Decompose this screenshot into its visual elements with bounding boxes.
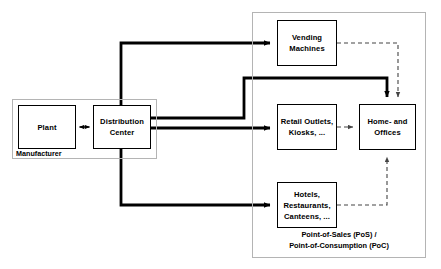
node-home-and-offices[interactable]: Home- and Offices bbox=[359, 104, 416, 150]
node-retail-outlets-label-line-2: Kiosks, ... bbox=[281, 127, 334, 138]
node-vending-machines-label-line-1: Vending bbox=[289, 32, 324, 43]
supply-chain-diagram: Manufacturer Point-of-Sales (PoS) / Poin… bbox=[0, 0, 441, 269]
node-hotels-label-line-2: Restaurants, bbox=[283, 200, 330, 211]
node-home-and-offices-label-line-2: Offices bbox=[367, 127, 407, 138]
node-hotels-label-line-1: Hotels, bbox=[283, 189, 330, 200]
node-vending-machines-label-line-2: Machines bbox=[289, 43, 324, 54]
node-vending-machines[interactable]: Vending Machines bbox=[277, 20, 337, 66]
node-hotels-label-line-3: Canteens, ... bbox=[283, 211, 330, 222]
group-manufacturer-label: Manufacturer bbox=[16, 149, 62, 158]
node-retail-outlets-label-line-1: Retail Outlets, bbox=[281, 116, 334, 127]
pos-caption-line-1: Point-of-Sales (PoS) / bbox=[252, 229, 426, 240]
pos-caption-line-2: Point-of-Consumption (PoC) bbox=[252, 240, 426, 251]
node-distribution-center-label-line-2: Center bbox=[100, 127, 144, 138]
node-plant[interactable]: Plant bbox=[18, 105, 76, 149]
node-hotels-restaurants-canteens[interactable]: Hotels, Restaurants, Canteens, ... bbox=[277, 182, 337, 228]
node-plant-label: Plant bbox=[37, 122, 56, 133]
node-home-and-offices-label-line-1: Home- and bbox=[367, 116, 407, 127]
group-point-of-sales-caption: Point-of-Sales (PoS) / Point-of-Consumpt… bbox=[252, 229, 426, 252]
node-distribution-center-label-line-1: Distribution bbox=[100, 116, 144, 127]
node-retail-outlets[interactable]: Retail Outlets, Kiosks, ... bbox=[277, 104, 337, 150]
edge-dc-vending-machines bbox=[121, 43, 270, 105]
node-distribution-center[interactable]: Distribution Center bbox=[93, 105, 151, 149]
